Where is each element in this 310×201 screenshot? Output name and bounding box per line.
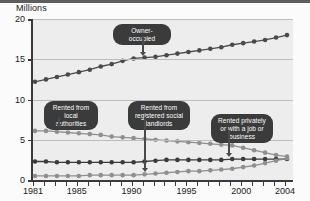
data-point	[109, 173, 114, 178]
data-point	[274, 153, 279, 158]
data-point	[186, 169, 191, 174]
y-axis-title: Millions	[16, 3, 47, 13]
data-point	[33, 174, 38, 179]
data-point	[87, 132, 92, 137]
data-point	[186, 50, 191, 55]
data-point	[55, 129, 60, 134]
data-point	[44, 129, 49, 134]
data-point	[98, 160, 103, 165]
x-tick-label: 1995	[176, 186, 196, 196]
y-tick-mark	[28, 180, 32, 182]
x-tick-mark	[197, 182, 198, 186]
gridline	[33, 59, 293, 60]
data-point	[241, 146, 246, 151]
data-point	[77, 160, 82, 165]
data-point	[230, 42, 235, 47]
y-tick-mark	[28, 100, 32, 102]
data-point	[230, 143, 235, 148]
x-tick-label: 2000	[231, 186, 251, 196]
data-point	[109, 134, 114, 139]
annotation-arrow-line	[142, 36, 144, 52]
data-point	[175, 170, 180, 175]
data-point	[77, 174, 82, 179]
data-point	[219, 45, 224, 50]
series-line	[35, 159, 287, 162]
y-tick-label: 20	[5, 14, 25, 24]
data-point	[164, 158, 169, 163]
data-point	[55, 75, 60, 80]
data-point	[285, 156, 290, 161]
data-point	[252, 148, 257, 153]
data-point	[98, 64, 103, 69]
data-point	[263, 157, 268, 162]
y-tick-label: 10	[5, 95, 25, 105]
data-point	[208, 158, 213, 163]
data-point	[175, 158, 180, 163]
data-point	[197, 158, 202, 163]
data-point	[274, 158, 279, 163]
x-tick-mark	[208, 182, 209, 186]
data-point	[44, 159, 49, 164]
data-point	[33, 129, 38, 134]
data-point	[142, 172, 147, 177]
data-point	[55, 174, 60, 179]
data-point	[164, 53, 169, 58]
data-point	[252, 163, 257, 168]
x-tick-mark	[44, 182, 45, 186]
data-point	[219, 158, 224, 163]
x-tick-label: 2004	[275, 186, 295, 196]
data-point	[252, 39, 257, 44]
data-point	[77, 131, 82, 136]
annotation-arrow-head	[56, 124, 62, 128]
data-point	[263, 161, 268, 166]
annotation-arrow-head	[140, 52, 146, 56]
annotation-arrow-line	[58, 117, 60, 124]
data-point	[208, 168, 213, 173]
data-point	[109, 160, 114, 165]
data-point	[241, 41, 246, 46]
data-point	[98, 173, 103, 178]
data-point	[55, 160, 60, 165]
x-tick-mark	[154, 182, 155, 186]
annotation-arrow-head	[142, 168, 148, 172]
data-point	[186, 158, 191, 163]
data-point	[230, 166, 235, 171]
data-point	[197, 169, 202, 174]
data-point	[87, 160, 92, 165]
data-point	[131, 160, 136, 165]
data-point	[153, 171, 158, 176]
data-point	[263, 38, 268, 43]
data-point	[197, 48, 202, 53]
x-tick-mark	[143, 182, 144, 186]
annotation-arrow-head	[226, 153, 232, 157]
data-point	[285, 33, 290, 38]
gridline	[33, 19, 293, 20]
data-point	[175, 51, 180, 56]
data-point	[252, 157, 257, 162]
data-point	[208, 46, 213, 51]
data-point	[120, 173, 125, 178]
x-tick-label: 1990	[122, 186, 142, 196]
data-point	[241, 157, 246, 162]
data-point	[131, 173, 136, 178]
x-tick-label: 1985	[67, 186, 87, 196]
data-point	[120, 160, 125, 165]
data-point	[66, 160, 71, 165]
data-point	[98, 133, 103, 138]
data-point	[87, 173, 92, 178]
x-tick-label: 1981	[23, 186, 43, 196]
data-point	[164, 170, 169, 175]
x-tick-mark	[110, 182, 111, 186]
x-tick-mark	[263, 182, 264, 186]
y-tick-label: 0	[5, 175, 25, 185]
data-point	[230, 157, 235, 162]
data-point	[66, 130, 71, 135]
annotation-arrow-line	[228, 130, 230, 153]
data-point	[66, 174, 71, 179]
data-point	[274, 35, 279, 40]
data-point	[208, 141, 213, 146]
data-point	[44, 174, 49, 179]
y-tick-mark	[28, 19, 32, 21]
data-point	[33, 159, 38, 164]
data-point	[219, 167, 224, 172]
